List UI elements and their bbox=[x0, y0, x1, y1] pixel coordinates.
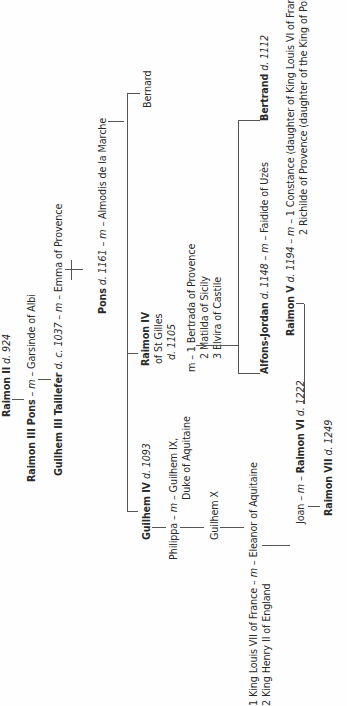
diagram-canvas: Raimon II d. 924 Raimon III Pons – m – G… bbox=[0, 0, 347, 706]
spouse-2: 2 Richilde of Provence (daughter of the … bbox=[297, 0, 310, 336]
connector bbox=[196, 345, 238, 346]
spouse: Joan bbox=[295, 504, 306, 524]
spouse-1: 1 King Louis VII of France bbox=[248, 588, 259, 706]
death-date: d. 1222 bbox=[295, 380, 306, 416]
spouse-title: Duke of Aquitaine bbox=[180, 416, 193, 560]
connector bbox=[296, 303, 304, 304]
node-eleanor: 1 King Louis VII of France – m – Eleanor… bbox=[247, 462, 273, 706]
spouse: Faidide of Uzès bbox=[259, 162, 270, 233]
death-date: d. 1161 bbox=[97, 249, 108, 285]
name: Raimon VII bbox=[323, 459, 334, 516]
spouse-1: 1 Constance (daughter of King Louis VI o… bbox=[285, 0, 296, 216]
name: Philippa bbox=[168, 523, 179, 560]
connector bbox=[262, 545, 290, 546]
node-raimon-iv-spouses: m – 1 Bertrada of Provence 2 Matilda of … bbox=[185, 244, 224, 372]
spouse: Almodis de la Marche bbox=[97, 118, 108, 219]
family-tree: Raimon II d. 924 Raimon III Pons – m – G… bbox=[0, 0, 347, 706]
marriage-mark: – m – bbox=[53, 295, 64, 320]
name: Alfons-Jordan bbox=[259, 302, 270, 374]
node-raimon-v: Raimon V d. 1194 – m – 1 Constance (daug… bbox=[284, 0, 310, 336]
children-bar bbox=[127, 93, 128, 512]
connector bbox=[127, 353, 138, 354]
node-bertrand: Bertrand d. 1112 bbox=[258, 35, 271, 121]
connector bbox=[152, 527, 166, 528]
connector bbox=[180, 527, 204, 528]
title: of St Gilles bbox=[152, 312, 165, 366]
marriage-mark: – m – bbox=[97, 222, 108, 247]
spouse-3: 3 Elvira of Castile bbox=[211, 244, 224, 372]
spouse-2: 2 Matilda of Sicily bbox=[198, 244, 211, 372]
node-philippa: Philippa – m – Guilhem IX, Duke of Aquit… bbox=[167, 416, 193, 560]
node-raimon-vi: Joan – m – Raimon VI d. 1222 bbox=[294, 380, 307, 524]
spouse-2: 2 King Henry II of England bbox=[260, 462, 273, 706]
death-date: d. 1093 bbox=[141, 443, 152, 479]
name: Raimon VI bbox=[295, 419, 306, 473]
connector bbox=[238, 373, 260, 374]
name: Guilhem IV bbox=[141, 482, 152, 540]
connector bbox=[71, 260, 72, 280]
death-date: d. 1194 bbox=[285, 247, 296, 283]
name: Raimon IV bbox=[139, 312, 152, 366]
name: Pons bbox=[97, 288, 108, 314]
connector bbox=[65, 269, 83, 270]
marriage-mark: – m – bbox=[285, 216, 296, 246]
death-date: d. c. 1037 bbox=[53, 323, 64, 370]
death-date: d. 1249 bbox=[323, 420, 334, 456]
node-guilhem-x: Guilhem X bbox=[208, 491, 221, 540]
death-date: d. 1105 bbox=[165, 312, 178, 366]
node-raimon-iv: Raimon IV of St Gilles d. 1105 bbox=[139, 312, 178, 366]
death-date: d. 1148 bbox=[259, 263, 270, 299]
node-raimon-ii: Raimon II d. 924 bbox=[0, 334, 13, 417]
marriage-mark: – m – bbox=[259, 233, 270, 261]
connector bbox=[127, 511, 138, 512]
name: Guilhem III Taillefer bbox=[53, 373, 64, 476]
connector bbox=[220, 527, 244, 528]
node-alfons-jordan: Alfons-Jordan d. 1148 – m – Faidide of U… bbox=[258, 162, 271, 374]
node-raimon-vii: Raimon VII d. 1249 bbox=[322, 420, 335, 516]
name: Eleanor of Aquitaine bbox=[248, 462, 259, 557]
connector bbox=[108, 121, 124, 122]
children-bar bbox=[238, 120, 239, 374]
connector bbox=[127, 93, 140, 94]
name: Bertrand bbox=[259, 74, 270, 121]
connector bbox=[12, 399, 24, 400]
death-date: d. 1112 bbox=[259, 35, 270, 71]
connector bbox=[238, 120, 260, 121]
name: Bernard bbox=[142, 71, 153, 108]
spouse: Garsinde of Albi bbox=[26, 294, 37, 369]
connector bbox=[308, 506, 320, 507]
marriage-mark: – m – bbox=[26, 372, 37, 397]
connector bbox=[38, 379, 51, 380]
node-pons: Pons d. 1161 – m – Almodis de la Marche bbox=[96, 118, 109, 314]
node-bernard: Bernard bbox=[141, 71, 154, 108]
marriage-mark: m – bbox=[186, 352, 197, 372]
marriage-mark: – m – bbox=[248, 558, 259, 588]
node-guilhem-iii: Guilhem III Taillefer d. c. 1037 – m – E… bbox=[52, 204, 65, 476]
marriage-mark: – m – bbox=[295, 473, 306, 503]
marriage-mark: – m – bbox=[168, 492, 179, 522]
node-guilhem-iv: Guilhem IV d. 1093 bbox=[140, 443, 153, 540]
death-date: d. 924 bbox=[1, 334, 12, 364]
spouse: Guilhem IX, bbox=[168, 438, 179, 493]
spouse: Emma of Provence bbox=[53, 204, 64, 292]
name: Guilhem X bbox=[209, 491, 220, 540]
name: Raimon III Pons bbox=[26, 399, 37, 482]
spouse-1: 1 Bertrada of Provence bbox=[186, 244, 197, 352]
name: Raimon V bbox=[285, 285, 296, 336]
node-raimon-iii-pons: Raimon III Pons – m – Garsinde of Albi bbox=[25, 294, 38, 482]
name: Raimon II bbox=[1, 367, 12, 417]
